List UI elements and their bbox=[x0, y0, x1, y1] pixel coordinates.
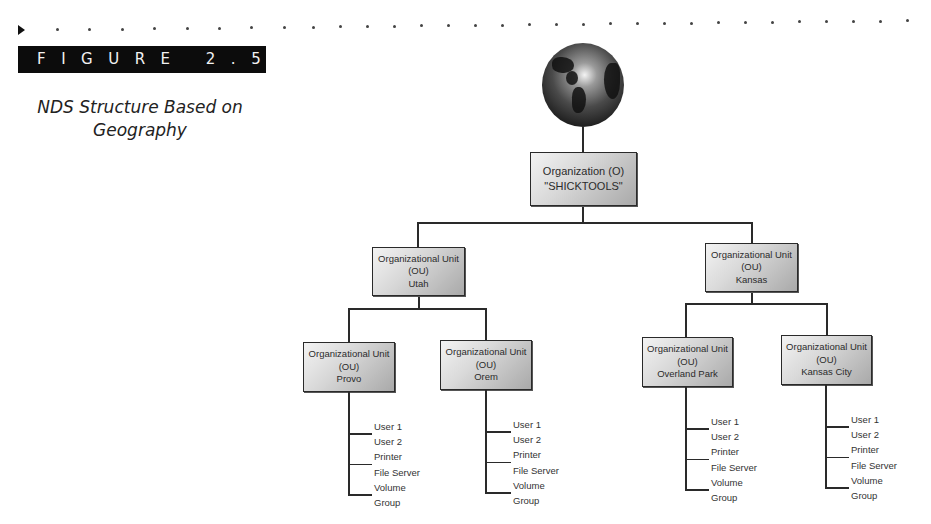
rule-dot bbox=[121, 28, 124, 31]
leaf-object[interactable]: Printer bbox=[513, 447, 559, 462]
connector-kansas-kcity bbox=[826, 303, 828, 336]
leaf-object[interactable]: File Server bbox=[851, 458, 897, 473]
org-node-type: Organization (O) bbox=[543, 164, 624, 179]
rule-dot bbox=[852, 20, 855, 23]
leaf-trunk-line bbox=[348, 392, 350, 496]
connector-utah-bus bbox=[348, 308, 486, 310]
leaf-object[interactable]: Volume bbox=[513, 478, 559, 493]
rule-dot bbox=[825, 20, 828, 23]
ou-node-kansas[interactable]: Organizational Unit (OU) Kansas bbox=[705, 243, 798, 292]
rule-dot bbox=[420, 24, 423, 27]
connector-bus-utah bbox=[417, 222, 419, 248]
leaf-trunk-line bbox=[685, 387, 687, 491]
leaf-object[interactable]: Printer bbox=[851, 442, 897, 457]
figure-canvas: FIGURE 2.5 NDS Structure Based on Geogra… bbox=[0, 0, 931, 524]
leaf-branch-line bbox=[825, 426, 849, 428]
rule-dot bbox=[906, 19, 909, 22]
connector-kansas-overland bbox=[685, 303, 687, 338]
rule-dot bbox=[555, 23, 558, 26]
ou-node-type: Organizational Unit bbox=[647, 343, 728, 356]
ou-node-type: Organizational Unit bbox=[711, 249, 792, 262]
leaf-object[interactable]: User 2 bbox=[374, 434, 420, 449]
ou-node-kansas-city[interactable]: Organizational Unit (OU) Kansas City bbox=[781, 335, 872, 385]
ou-node-type: Organizational Unit bbox=[309, 348, 390, 361]
leaf-object[interactable]: File Server bbox=[513, 463, 559, 478]
ou-node-abbr: (OU) bbox=[339, 361, 360, 374]
ou-node-overland-park[interactable]: Organizational Unit (OU) Overland Park bbox=[642, 337, 733, 387]
rule-dot bbox=[879, 20, 882, 23]
leaf-object[interactable]: Volume bbox=[711, 475, 757, 490]
leaf-object[interactable]: Volume bbox=[374, 480, 420, 495]
rule-dot bbox=[153, 27, 156, 30]
connector-kansas-bus bbox=[685, 303, 827, 305]
leaf-object[interactable]: User 2 bbox=[851, 427, 897, 442]
ou-node-type: Organizational Unit bbox=[446, 346, 527, 359]
rule-dot bbox=[366, 25, 369, 28]
rule-dot bbox=[474, 24, 477, 27]
rule-dot bbox=[636, 22, 639, 25]
leaf-branch-line bbox=[825, 487, 849, 489]
bullet-arrow-icon bbox=[18, 25, 25, 35]
leaf-trunk-line bbox=[825, 385, 827, 489]
leaf-branch-line bbox=[825, 457, 849, 459]
leaf-object[interactable]: User 1 bbox=[513, 417, 559, 432]
ou-node-provo[interactable]: Organizational Unit (OU) Provo bbox=[303, 342, 395, 392]
figure-title: NDS Structure Based on Geography bbox=[20, 96, 260, 142]
rule-dot bbox=[283, 26, 286, 29]
connector-utah-provo bbox=[348, 308, 350, 343]
leaf-object[interactable]: User 1 bbox=[851, 412, 897, 427]
rule-dot bbox=[771, 21, 774, 24]
leaf-branch-line bbox=[685, 459, 709, 461]
ou-node-abbr: (OU) bbox=[741, 261, 762, 274]
ou-node-type: Organizational Unit bbox=[378, 253, 459, 266]
ou-node-orem[interactable]: Organizational Unit (OU) Orem bbox=[440, 340, 532, 390]
ou-node-utah[interactable]: Organizational Unit (OU) Utah bbox=[372, 247, 465, 296]
leaf-branch-line bbox=[485, 431, 511, 433]
figure-title-line-1: NDS Structure Based on bbox=[20, 96, 260, 119]
rule-dot bbox=[250, 26, 253, 29]
leaf-object-list: User 1User 2PrinterFile ServerVolumeGrou… bbox=[711, 414, 757, 505]
rule-dot bbox=[528, 23, 531, 26]
leaf-object[interactable]: User 1 bbox=[711, 414, 757, 429]
connector-globe-to-org bbox=[582, 126, 584, 153]
leaf-object-list: User 1User 2PrinterFile ServerVolumeGrou… bbox=[513, 417, 559, 508]
leaf-branch-line bbox=[685, 489, 709, 491]
ou-node-type: Organizational Unit bbox=[786, 341, 867, 354]
leaf-object[interactable]: Printer bbox=[374, 449, 420, 464]
leaf-object[interactable]: Printer bbox=[711, 444, 757, 459]
leaf-branch-line bbox=[348, 464, 372, 466]
rule-dot bbox=[717, 21, 720, 24]
rule-dot bbox=[501, 24, 504, 27]
rule-dot bbox=[798, 20, 801, 23]
leaf-object[interactable]: User 2 bbox=[513, 432, 559, 447]
leaf-object[interactable]: File Server bbox=[711, 460, 757, 475]
leaf-object[interactable]: User 1 bbox=[374, 419, 420, 434]
rule-dot bbox=[447, 24, 450, 27]
leaf-object[interactable]: File Server bbox=[374, 465, 420, 480]
connector-org-bus bbox=[417, 222, 752, 224]
ou-node-name: Kansas City bbox=[801, 366, 852, 379]
rule-dot bbox=[690, 22, 693, 25]
rule-dot bbox=[88, 28, 91, 31]
rule-dot bbox=[56, 28, 59, 31]
leaf-object-list: User 1User 2PrinterFile ServerVolumeGrou… bbox=[374, 419, 420, 510]
leaf-object[interactable]: Volume bbox=[851, 473, 897, 488]
rule-dot bbox=[744, 21, 747, 24]
leaf-object[interactable]: Group bbox=[513, 493, 559, 508]
ou-node-abbr: (OU) bbox=[408, 265, 429, 278]
leaf-object[interactable]: Group bbox=[374, 495, 420, 510]
leaf-object[interactable]: Group bbox=[711, 490, 757, 505]
org-node-name: "SHICKTOOLS" bbox=[544, 179, 623, 194]
leaf-object[interactable]: Group bbox=[851, 488, 897, 503]
figure-title-line-2: Geography bbox=[20, 119, 260, 142]
globe-icon bbox=[542, 43, 624, 127]
connector-utah-orem bbox=[485, 308, 487, 341]
ou-node-abbr: (OU) bbox=[476, 359, 497, 372]
rule-dot bbox=[393, 25, 396, 28]
ou-node-abbr: (OU) bbox=[677, 356, 698, 369]
org-node-shicktools[interactable]: Organization (O) "SHICKTOOLS" bbox=[530, 152, 637, 206]
rule-dot bbox=[663, 22, 666, 25]
leaf-object[interactable]: User 2 bbox=[711, 429, 757, 444]
ou-node-name: Utah bbox=[408, 278, 428, 291]
leaf-branch-line bbox=[348, 494, 372, 496]
